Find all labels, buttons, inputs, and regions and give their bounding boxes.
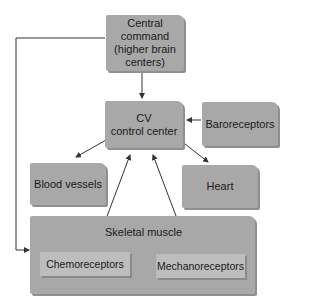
central-command-line-4: centers) — [125, 56, 165, 69]
blood-vessels-label: Blood vessels — [34, 178, 102, 191]
central-command-line-2: command — [121, 30, 169, 43]
heart-label: Heart — [207, 180, 234, 193]
mechanoreceptors-box: Mechanoreceptors — [156, 254, 245, 278]
skeletal-muscle-label: Skeletal muscle — [105, 226, 182, 238]
central-command-line-1: Central — [127, 17, 162, 30]
cv-control-center-box: CV control center — [105, 101, 183, 148]
central-command-line-3: (higher brain — [114, 43, 176, 56]
cv-line-2: control center — [111, 125, 178, 138]
chemoreceptors-box: Chemoreceptors — [40, 252, 130, 276]
blood-vessels-box: Blood vessels — [30, 163, 106, 205]
baroreceptors-box: Baroreceptors — [202, 102, 278, 146]
mechanoreceptors-label: Mechanoreceptors — [157, 260, 244, 272]
baroreceptors-label: Baroreceptors — [205, 118, 274, 131]
heart-box: Heart — [182, 165, 258, 208]
cv-line-1: CV — [136, 112, 151, 125]
central-command-box: Central command (higher brain centers) — [106, 15, 184, 71]
chemoreceptors-label: Chemoreceptors — [46, 258, 124, 270]
